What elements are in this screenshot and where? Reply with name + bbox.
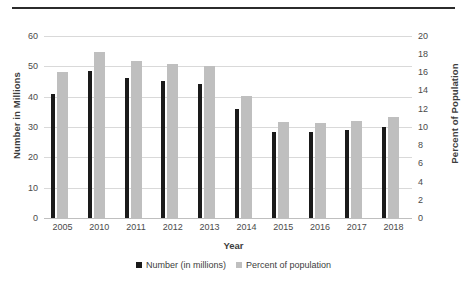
left-tick-10: 10 [28,184,38,193]
chart-legend: Number (in millions)Percent of populatio… [0,260,467,270]
bar-percent-of-population [388,117,399,218]
x-axis-title: Year [0,240,467,251]
bar-percent-of-population [94,52,105,218]
bar-group [191,36,228,218]
right-tick-12: 12 [418,105,428,114]
x-tick-label: 2012 [154,222,191,232]
legend-label: Number (in millions) [146,260,226,270]
bar-chart-figure: 60 50 40 30 20 10 0 20 18 16 14 12 10 8 … [0,0,467,283]
bar-group [154,36,191,218]
bar-percent-of-population [351,121,362,218]
bar-group [338,36,375,218]
bar-group [375,36,412,218]
bar-group [265,36,302,218]
legend-item: Percent of population [236,260,331,270]
legend-item: Number (in millions) [136,260,226,270]
bar-percent-of-population [204,66,215,218]
right-tick-14: 14 [418,86,428,95]
left-tick-0: 0 [33,214,38,223]
x-tick-label: 2010 [81,222,118,232]
x-tick-label: 2013 [191,222,228,232]
bar-number-in-millions [198,84,202,218]
bar-percent-of-population [278,122,289,218]
bar-number-in-millions [345,130,349,218]
left-tick-60: 60 [28,32,38,41]
left-tick-50: 50 [28,62,38,71]
x-tick-label: 2017 [338,222,375,232]
right-tick-2: 2 [418,196,423,205]
x-tick-label: 2015 [265,222,302,232]
bar-groups [44,36,412,218]
bar-group [228,36,265,218]
bar-number-in-millions [235,109,239,218]
bar-number-in-millions [272,132,276,218]
x-tick-label: 2005 [44,222,81,232]
bar-group [302,36,339,218]
top-divider-rule [12,7,455,9]
x-tick-label: 2014 [228,222,265,232]
legend-swatch-icon [236,262,242,268]
bar-percent-of-population [167,64,178,218]
bar-group [81,36,118,218]
right-axis-ticks: 20 18 16 14 12 10 8 6 4 2 0 [418,36,438,218]
bar-group [118,36,155,218]
right-tick-20: 20 [418,32,428,41]
left-tick-30: 30 [28,123,38,132]
right-tick-4: 4 [418,178,423,187]
bar-number-in-millions [125,78,129,218]
bar-group [44,36,81,218]
left-tick-20: 20 [28,153,38,162]
legend-label: Percent of population [246,260,331,270]
x-tick-label: 2018 [375,222,412,232]
bar-number-in-millions [51,94,55,218]
right-axis-title: Percent of Population [449,49,460,179]
bar-number-in-millions [309,132,313,218]
bar-percent-of-population [315,123,326,218]
legend-swatch-icon [136,262,142,268]
bar-number-in-millions [382,127,386,218]
bar-percent-of-population [241,96,252,218]
bar-number-in-millions [88,71,92,218]
bar-percent-of-population [131,61,142,218]
bar-percent-of-population [57,72,68,218]
right-tick-0: 0 [418,214,423,223]
right-tick-8: 8 [418,141,423,150]
right-tick-10: 10 [418,123,428,132]
right-tick-6: 6 [418,159,423,168]
right-tick-18: 18 [418,50,428,59]
left-axis-title: Number in Millions [11,56,22,176]
x-tick-label: 2016 [302,222,339,232]
left-tick-40: 40 [28,93,38,102]
x-tick-label: 2011 [118,222,155,232]
bar-number-in-millions [161,81,165,218]
right-tick-16: 16 [418,68,428,77]
axis-baseline [44,218,412,219]
